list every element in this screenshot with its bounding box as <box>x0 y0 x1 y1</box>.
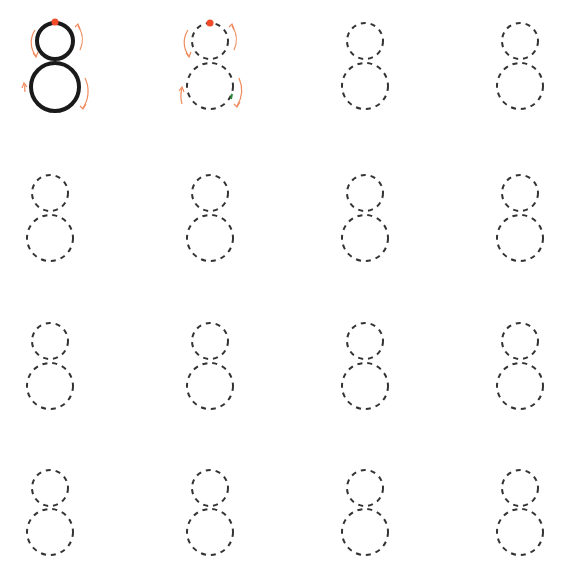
trace-digit-eight[interactable] <box>155 448 265 573</box>
dashed-eight-icon <box>310 300 420 430</box>
trace-digit-eight[interactable] <box>465 300 575 430</box>
end-mark-icon <box>231 94 232 99</box>
trace-digit-eight[interactable] <box>310 150 420 280</box>
dashed-eight-icon <box>310 448 420 573</box>
trace-digit-eight-guided[interactable] <box>155 0 265 130</box>
trace-digit-eight[interactable] <box>155 150 265 280</box>
dashed-eight-icon <box>155 0 265 130</box>
trace-digit-eight[interactable] <box>0 448 110 573</box>
dashed-eight-icon <box>310 150 420 280</box>
dashed-eight-icon <box>0 448 110 573</box>
trace-digit-eight[interactable] <box>310 300 420 430</box>
trace-digit-eight[interactable] <box>0 150 110 280</box>
dashed-eight-icon <box>155 448 265 573</box>
trace-digit-eight[interactable] <box>155 300 265 430</box>
start-dot-icon <box>52 19 59 26</box>
trace-digit-eight[interactable] <box>465 448 575 573</box>
dashed-eight-icon <box>465 0 575 130</box>
dashed-eight-icon <box>310 0 420 130</box>
trace-digit-eight[interactable] <box>310 0 420 130</box>
dashed-eight-icon <box>465 300 575 430</box>
solid-eight-icon <box>0 0 110 130</box>
model-digit-eight <box>0 0 110 130</box>
dashed-eight-icon <box>0 300 110 430</box>
dashed-eight-icon <box>155 300 265 430</box>
tracing-worksheet <box>0 0 578 573</box>
trace-digit-eight[interactable] <box>465 0 575 130</box>
dashed-eight-icon <box>155 150 265 280</box>
trace-digit-eight[interactable] <box>0 300 110 430</box>
dashed-eight-icon <box>465 150 575 280</box>
dashed-eight-icon <box>465 448 575 573</box>
trace-digit-eight[interactable] <box>310 448 420 573</box>
start-dot-icon <box>207 20 214 27</box>
dashed-eight-icon <box>0 150 110 280</box>
trace-digit-eight[interactable] <box>465 150 575 280</box>
